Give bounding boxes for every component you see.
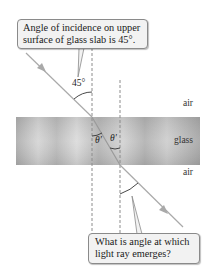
callout-bottom-tail	[132, 196, 142, 234]
callout-bottom-line2: light ray emerges?	[95, 248, 195, 260]
callout-incidence-angle: Angle of incidence on upper surface of g…	[17, 19, 148, 49]
medium-label-lower-air: air	[183, 167, 193, 177]
callout-top-tail	[78, 48, 84, 77]
refracted-angle-label-right: θ′	[110, 133, 117, 143]
callout-emergence-question: What is angle at which light ray emerges…	[88, 233, 200, 264]
emergent-angle-arc	[120, 183, 138, 194]
callout-bottom-line1: What is angle at which	[95, 236, 195, 248]
medium-label-upper-air: air	[183, 98, 193, 108]
medium-label-glass: glass	[174, 135, 193, 145]
glass-slab	[16, 117, 200, 165]
callout-top-line1: Angle of incidence on upper	[23, 22, 143, 34]
callout-top-line2: surface of glass slab is 45°.	[23, 34, 143, 46]
incident-angle-arc	[74, 92, 92, 99]
refracted-angle-label-left: θ′	[95, 135, 102, 145]
incident-angle-label: 45°	[72, 78, 85, 88]
emergent-ray-arrow-icon	[159, 205, 168, 214]
emergent-ray	[120, 165, 183, 227]
